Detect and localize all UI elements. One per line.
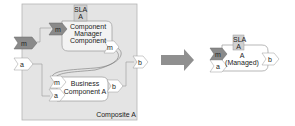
manager-port-m1-label: m <box>106 44 114 51</box>
composite-port-m-label: m <box>18 40 30 47</box>
composite-port-b-label: b <box>135 59 145 66</box>
business-line2: Component A <box>62 88 108 95</box>
manager-line2: Manager <box>66 30 110 37</box>
sla-sub-label-right: A <box>233 43 244 50</box>
managed-port-m-label: m <box>213 51 223 58</box>
business-port-m-label: m <box>53 79 61 86</box>
manager-port-m-label: m <box>53 26 63 33</box>
managed-port-b-label: b <box>265 56 275 63</box>
manager-line1: Component <box>66 23 110 30</box>
sla-sub-label-left: A <box>74 13 87 20</box>
business-line1: Business <box>62 80 108 87</box>
managed-port-a-label: a <box>213 63 223 70</box>
business-port-a-label: a <box>52 92 60 99</box>
managed-line2: (Managed) <box>222 59 262 66</box>
sla-label-right: SLA <box>233 36 244 43</box>
transform-arrow-icon <box>161 49 194 71</box>
composite-port-a-label: a <box>17 61 27 68</box>
business-port-b-label: b <box>110 83 118 90</box>
composite-a-label: Composite A <box>96 111 136 118</box>
manager-line3: Component <box>66 37 110 44</box>
managed-line1: A <box>222 52 262 59</box>
sla-label-left: SLA <box>74 6 87 13</box>
